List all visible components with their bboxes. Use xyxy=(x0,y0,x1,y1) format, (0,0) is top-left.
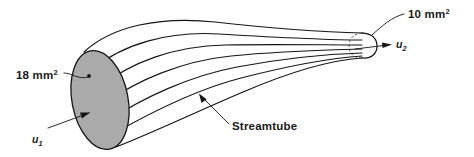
inlet-velocity-label: u1 xyxy=(32,133,42,148)
streamtube-figure: 18 mm2 10 mm2 u1 u2 xyxy=(0,0,474,157)
inlet-area-ellipse xyxy=(63,46,137,155)
inlet-area-label: 18 mm2 xyxy=(16,68,58,82)
streamlines-group xyxy=(92,34,362,134)
outlet-area-leader-line xyxy=(372,14,404,35)
outlet-area-annotation: 10 mm2 xyxy=(372,7,450,36)
outlet-velocity-annotation: u2 xyxy=(355,38,406,53)
outlet-velocity-arrowhead xyxy=(382,43,392,49)
streamtube-annotation: Streamtube xyxy=(199,94,297,133)
streamline-2 xyxy=(99,45,362,88)
outlet-area-label: 10 mm2 xyxy=(408,7,450,21)
outlet-cap-arc xyxy=(362,33,377,58)
outlet-velocity-label: u2 xyxy=(396,38,406,53)
streamline-4 xyxy=(109,53,362,120)
streamtube-label: Streamtube xyxy=(232,120,297,132)
streamtube-diagram-canvas: 18 mm2 10 mm2 u1 u2 xyxy=(0,0,474,157)
tube-bottom-boundary xyxy=(116,58,362,147)
inlet-face-group xyxy=(63,46,137,155)
outlet-end-group xyxy=(349,33,377,58)
streamtube-arrowhead xyxy=(199,94,207,104)
tube-top-boundary xyxy=(84,20,363,52)
